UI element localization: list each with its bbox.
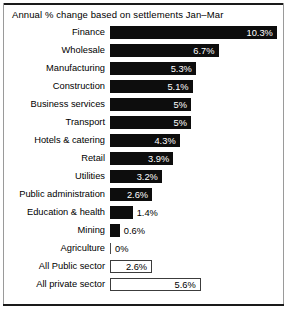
value-label: 0.6%: [124, 225, 145, 237]
category-label-finance: Finance: [0, 26, 105, 38]
category-label-business-services: Business services: [0, 98, 105, 110]
bottom-rule: [3, 304, 284, 306]
chart-row: All private sector5.6%: [0, 277, 289, 295]
value-label: 3.9%: [148, 153, 169, 165]
chart-row: Education & health1.4%: [0, 205, 289, 223]
category-label-manufacturing: Manufacturing: [0, 62, 105, 74]
chart-row: Agriculture0%: [0, 241, 289, 259]
top-rule: [3, 3, 284, 5]
chart-row: Construction5.1%: [0, 79, 289, 97]
category-label-education-health: Education & health: [0, 206, 105, 218]
category-label-construction: Construction: [0, 80, 105, 92]
value-label: 6.7%: [193, 45, 214, 57]
value-label: 5%: [174, 117, 187, 129]
chart-row: Mining0.6%: [0, 223, 289, 241]
category-label-all-public-sector: All Public sector: [0, 260, 105, 272]
chart-row: Transport5%: [0, 115, 289, 133]
chart-row: Public administration2.6%: [0, 187, 289, 205]
chart-row: Manufacturing5.3%: [0, 61, 289, 79]
category-label-mining: Mining: [0, 224, 105, 236]
chart-plot-area: Finance10.3%Wholesale6.7%Manufacturing5.…: [0, 25, 289, 295]
chart-row: Business services5%: [0, 97, 289, 115]
value-label: 4.3%: [154, 135, 175, 147]
category-label-utilities: Utilities: [0, 170, 105, 182]
category-label-transport: Transport: [0, 116, 105, 128]
chart-title: Annual % change based on settlements Jan…: [12, 9, 223, 20]
value-label: 1.4%: [137, 207, 158, 219]
bar-mining[interactable]: [110, 224, 120, 237]
chart-row: Hotels & catering4.3%: [0, 133, 289, 151]
chart-row: Wholesale6.7%: [0, 43, 289, 61]
category-label-wholesale: Wholesale: [0, 44, 105, 56]
value-label: 5.6%: [175, 279, 196, 291]
bar-agriculture[interactable]: [110, 243, 111, 254]
chart-row: Utilities3.2%: [0, 169, 289, 187]
chart-row: All Public sector2.6%: [0, 259, 289, 277]
category-label-hotels-catering: Hotels & catering: [0, 134, 105, 146]
value-label: 10.3%: [246, 27, 272, 39]
value-label: 5.1%: [167, 81, 188, 93]
value-label: 2.6%: [127, 189, 148, 201]
value-label: 2.6%: [126, 261, 147, 273]
chart-row: Retail3.9%: [0, 151, 289, 169]
category-label-all-private-sector: All private sector: [0, 278, 105, 290]
category-label-public-administration: Public administration: [0, 188, 105, 200]
bar-chart-figure: Annual % change based on settlements Jan…: [0, 0, 289, 312]
value-label: 3.2%: [137, 171, 158, 183]
category-label-retail: Retail: [0, 152, 105, 164]
bar-education-health[interactable]: [110, 206, 133, 219]
category-label-agriculture: Agriculture: [0, 242, 105, 254]
value-label: 5.3%: [171, 63, 192, 75]
value-label: 0%: [115, 243, 128, 255]
chart-row: Finance10.3%: [0, 25, 289, 43]
value-label: 5%: [174, 99, 187, 111]
